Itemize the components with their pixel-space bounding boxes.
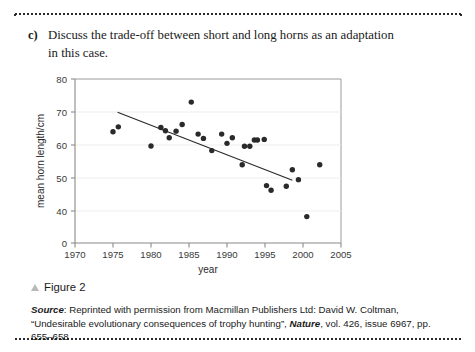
data-point bbox=[230, 135, 235, 140]
data-point bbox=[224, 141, 229, 146]
svg-text:2005: 2005 bbox=[330, 249, 351, 260]
data-point bbox=[163, 128, 168, 133]
source-journal-name: Nature bbox=[290, 318, 321, 329]
data-point bbox=[209, 148, 214, 153]
data-point bbox=[195, 131, 200, 136]
scatter-plot-svg: 80706050400 1970197519801985199019952000… bbox=[0, 68, 475, 278]
svg-text:0: 0 bbox=[62, 238, 67, 249]
svg-text:1970: 1970 bbox=[64, 249, 85, 260]
y-axis: 80706050400 bbox=[56, 74, 75, 249]
svg-text:1990: 1990 bbox=[216, 249, 237, 260]
question-label: c) bbox=[28, 26, 48, 44]
data-point bbox=[179, 122, 184, 127]
data-point bbox=[317, 162, 322, 167]
data-points bbox=[110, 99, 322, 219]
svg-text:1975: 1975 bbox=[102, 249, 123, 260]
svg-text:1980: 1980 bbox=[140, 249, 161, 260]
svg-text:70: 70 bbox=[56, 107, 67, 118]
source-note: Source: Reprinted with permission from M… bbox=[31, 303, 441, 344]
figure-chart: 80706050400 1970197519801985199019952000… bbox=[0, 68, 475, 278]
x-axis: 19701975198019851990199520002005 bbox=[64, 243, 351, 260]
data-point bbox=[242, 144, 247, 149]
svg-text:2000: 2000 bbox=[292, 249, 313, 260]
data-point bbox=[158, 125, 163, 130]
y-axis-title: mean horn length/cm bbox=[35, 114, 46, 208]
data-point bbox=[173, 128, 178, 133]
data-point bbox=[148, 143, 153, 148]
figure-caption-text: Figure 2 bbox=[44, 281, 85, 293]
data-point bbox=[110, 129, 115, 134]
data-point bbox=[268, 188, 273, 193]
question-block: c) Discuss the trade-off between short a… bbox=[28, 26, 438, 62]
data-point bbox=[304, 214, 309, 219]
data-point bbox=[116, 124, 121, 129]
x-axis-title: year bbox=[198, 264, 218, 275]
figure-caption: Figure 2 bbox=[31, 281, 85, 293]
data-point bbox=[201, 136, 206, 141]
svg-text:1985: 1985 bbox=[178, 249, 199, 260]
data-point bbox=[240, 162, 245, 167]
data-point bbox=[255, 137, 260, 142]
data-point bbox=[247, 144, 252, 149]
plot-frame bbox=[75, 79, 341, 243]
page-frame: c) Discuss the trade-off between short a… bbox=[0, 0, 475, 352]
dotted-border-top bbox=[14, 13, 462, 15]
data-point bbox=[189, 99, 194, 104]
data-point bbox=[296, 177, 301, 182]
data-point bbox=[167, 135, 172, 140]
svg-text:40: 40 bbox=[56, 206, 67, 217]
data-point bbox=[219, 131, 224, 136]
svg-text:80: 80 bbox=[56, 74, 67, 85]
triangle-bullet-icon bbox=[31, 284, 39, 291]
question-text: Discuss the trade-off between short and … bbox=[48, 26, 403, 62]
svg-text:50: 50 bbox=[56, 173, 67, 184]
svg-text:60: 60 bbox=[56, 140, 67, 151]
source-label: Source bbox=[31, 304, 64, 315]
svg-text:1995: 1995 bbox=[254, 249, 275, 260]
data-point bbox=[290, 167, 295, 172]
data-point bbox=[262, 137, 267, 142]
grid-lines bbox=[75, 112, 341, 211]
data-point bbox=[264, 183, 269, 188]
data-point bbox=[284, 184, 289, 189]
trend-line bbox=[118, 112, 293, 180]
